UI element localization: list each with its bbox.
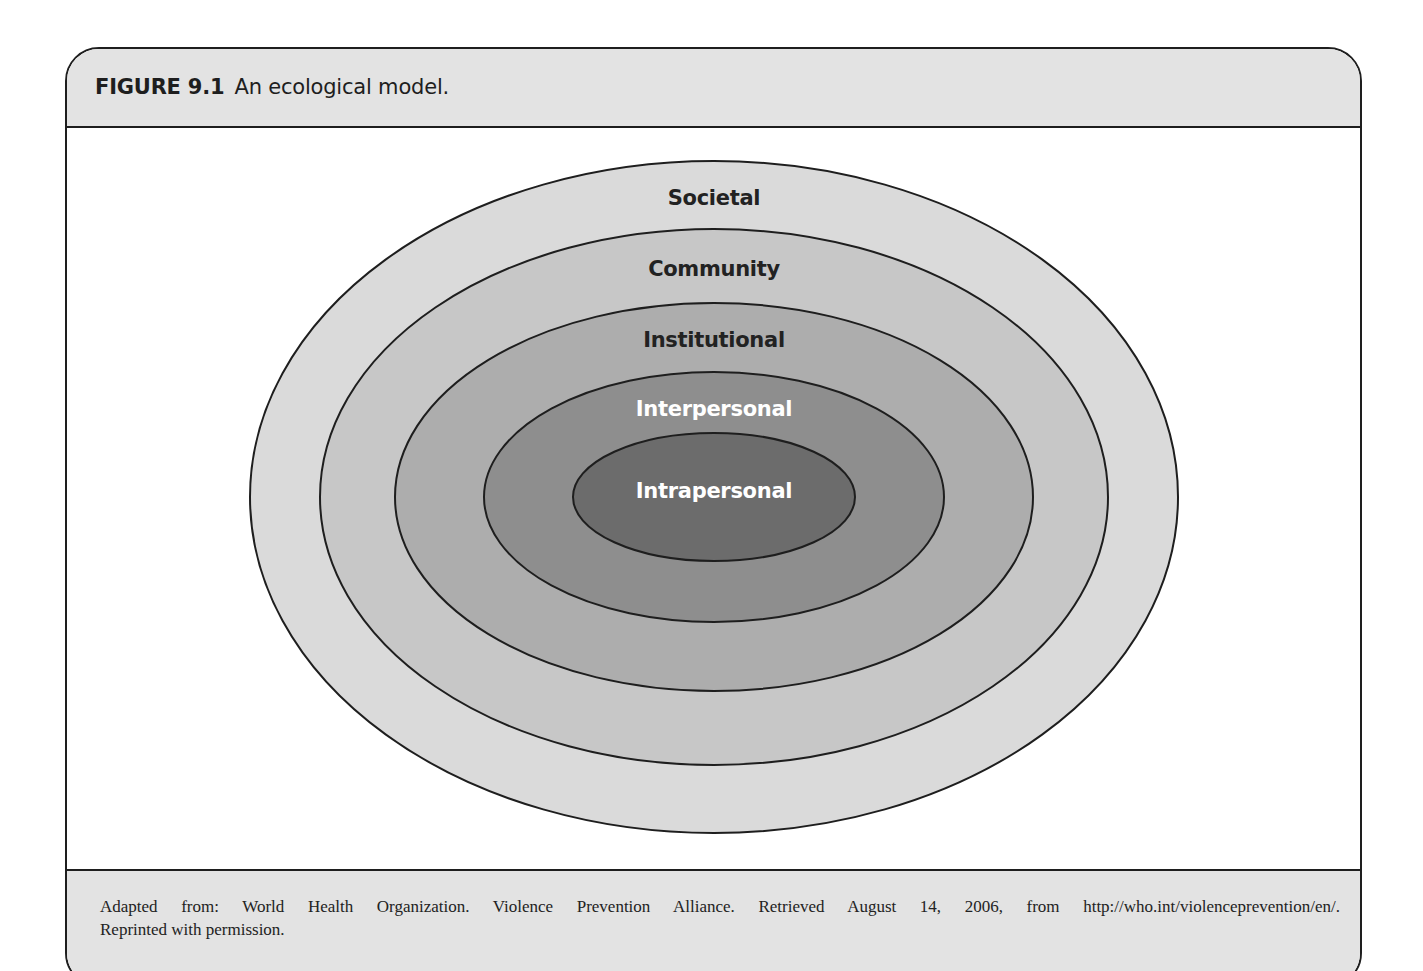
label-community: Community	[648, 257, 780, 281]
label-societal: Societal	[668, 186, 760, 210]
ecological-model-diagram: SocietalCommunityInstitutionalInterperso…	[0, 0, 1423, 971]
label-interpersonal: Interpersonal	[636, 397, 792, 421]
label-institutional: Institutional	[643, 328, 785, 352]
label-intrapersonal: Intrapersonal	[636, 479, 792, 503]
